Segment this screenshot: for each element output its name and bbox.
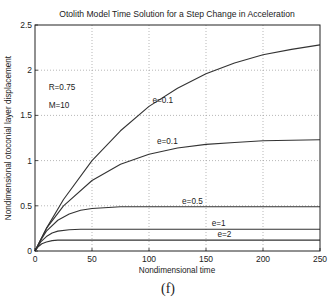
y-tick-label: 2 bbox=[27, 65, 32, 75]
figure-caption: (f) bbox=[0, 281, 336, 297]
annotation-label: e=1 bbox=[212, 219, 226, 228]
x-tick-label: 50 bbox=[87, 254, 97, 264]
chart: Otolith Model Time Solution for a Step C… bbox=[0, 0, 336, 306]
annotation-label: e=0.1 bbox=[157, 137, 178, 146]
annotation-label: e=2 bbox=[217, 230, 231, 239]
x-tick-label: 200 bbox=[256, 254, 270, 264]
curves bbox=[35, 45, 320, 251]
x-tick-label: 250 bbox=[313, 254, 327, 264]
y-tick-label: 0.5 bbox=[20, 201, 32, 211]
y-tick-label: 0 bbox=[27, 246, 32, 256]
x-tick-label: 0 bbox=[33, 254, 38, 264]
series-line bbox=[35, 140, 320, 251]
x-tick-label: 150 bbox=[199, 254, 213, 264]
x-axis-label: Nondimensional time bbox=[139, 266, 216, 275]
y-axis-label: Nondimensional otoconial layer displacem… bbox=[4, 55, 13, 220]
series-line bbox=[35, 240, 320, 251]
annotation-label: R=0.75 bbox=[49, 83, 76, 92]
x-axis-ticks: 050100150200250 bbox=[33, 248, 328, 264]
y-tick-label: 1 bbox=[27, 156, 32, 166]
x-tick-label: 100 bbox=[142, 254, 156, 264]
annotation-label: M=10 bbox=[49, 101, 70, 110]
annotation-label: e=0.5 bbox=[182, 197, 203, 206]
y-tick-label: 1.5 bbox=[20, 110, 32, 120]
annotation-label: e=0.1 bbox=[152, 96, 173, 105]
y-tick-label: 2.5 bbox=[20, 20, 32, 30]
chart-title: Otolith Model Time Solution for a Step C… bbox=[59, 9, 295, 19]
